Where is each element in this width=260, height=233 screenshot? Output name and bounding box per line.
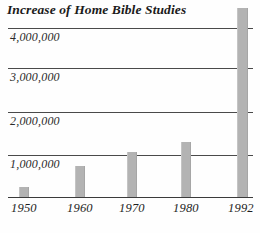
x-axis-tick-label-1960: 1960 [67, 201, 93, 216]
gridline [8, 28, 253, 29]
bar-1992 [237, 8, 248, 197]
bar-1960 [75, 166, 85, 197]
plot-area: 4,000,0003,000,0002,000,0001,000,000 195… [0, 0, 260, 233]
gridline [8, 68, 253, 69]
y-axis-tick-label: 1,000,000 [10, 157, 60, 172]
x-axis-tick-label-1950: 1950 [11, 201, 37, 216]
x-axis-baseline [8, 197, 253, 198]
x-axis-tick-label-1970: 1970 [119, 201, 145, 216]
x-axis-tick-label-1992: 1992 [228, 201, 254, 216]
bar-1980 [181, 142, 191, 197]
gridline [8, 112, 253, 113]
bar-chart-figure: Increase of Home Bible Studies 4,000,000… [0, 0, 260, 233]
y-axis-tick-label: 2,000,000 [10, 114, 60, 129]
bar-1970 [127, 152, 137, 197]
bar-1950 [19, 187, 29, 197]
y-axis-tick-label: 4,000,000 [10, 30, 60, 45]
y-axis-tick-label: 3,000,000 [10, 70, 60, 85]
x-axis-tick-label-1980: 1980 [173, 201, 199, 216]
